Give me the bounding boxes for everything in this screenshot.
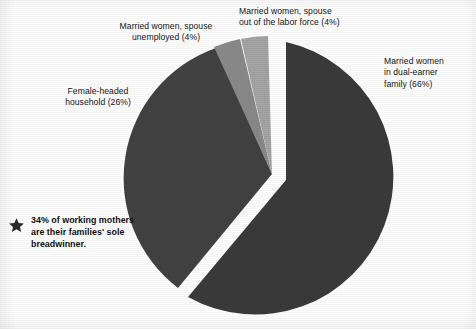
- slice-label-dual-earner: Married women in dual-earner family (66%…: [384, 56, 476, 90]
- slice-label-spouse-unemployed: Married women, spouse unemployed (4%): [107, 21, 225, 44]
- callout-annotation: 34% of working mothers are their familie…: [8, 214, 154, 251]
- slice-label-out-of-labor-force: Married women, spouse out of the labor f…: [239, 6, 359, 29]
- pie-chart-figure: Married women, spouse out of the labor f…: [0, 0, 476, 329]
- slice-label-female-headed: Female-headed household (26%): [44, 86, 152, 109]
- pie-svg: [0, 0, 476, 329]
- annotation-text: 34% of working mothers are their familie…: [31, 214, 134, 251]
- star-icon: [8, 217, 25, 234]
- pie-chart-graphic: [0, 0, 476, 329]
